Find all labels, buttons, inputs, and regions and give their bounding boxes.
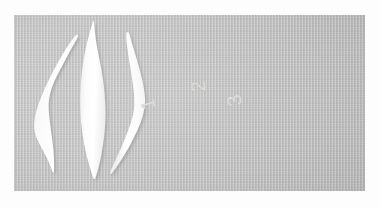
specimen-group: 1 2 3 [14,15,365,191]
specimen-2-shape [80,21,105,180]
photograph-frame: 1 2 3 [0,0,380,207]
fabric-backdrop: 1 2 3 [14,15,365,191]
specimen-shapes-svg [14,15,365,191]
specimen-1-shape [34,35,78,173]
specimen-2-label: 2 [187,80,211,93]
